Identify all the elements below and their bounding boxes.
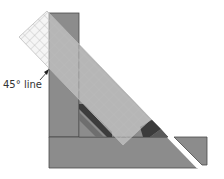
mitered-corner-diagram: 45° line [0,0,224,179]
label-45-degree-line: 45° line [3,80,42,90]
